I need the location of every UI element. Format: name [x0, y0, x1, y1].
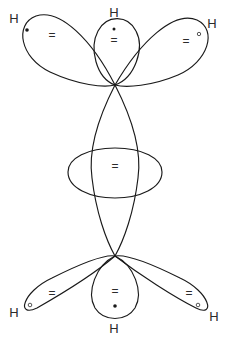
electron-pair-top-right: =	[182, 34, 189, 48]
atom-label-h-bottom-center: H	[109, 321, 118, 336]
atom-label-h-top-right: H	[207, 16, 216, 31]
electron-pair-center: =	[111, 159, 118, 173]
electron-dot-top-right	[197, 32, 200, 35]
top-right-ch-lobe	[115, 18, 208, 86]
electron-dot-bottom-left	[28, 303, 32, 307]
bottom-left-ch-lobe	[25, 256, 115, 310]
atom-label-h-bottom-left: H	[9, 305, 18, 320]
electron-dot-top-left	[25, 28, 29, 32]
electron-dot-bottom-center	[113, 304, 117, 308]
atom-label-h-bottom-right: H	[209, 309, 218, 324]
electron-dot-top-center	[113, 28, 116, 31]
electron-pair-bottom-right: =	[185, 286, 192, 300]
electron-pair-bottom-center: =	[111, 284, 118, 298]
central-cc-lobe-right	[115, 85, 139, 256]
electron-dot-bottom-right	[196, 303, 200, 307]
bottom-right-ch-lobe	[115, 256, 208, 310]
diagram-canvas: = = = = = = = H H H H H H	[0, 0, 229, 340]
ethane-orbital-diagram: = = = = = = = H H H H H H	[0, 0, 229, 340]
electron-pair-bottom-left: =	[48, 286, 55, 300]
top-center-ch-lobe	[94, 19, 139, 85]
electron-pair-top-center: =	[110, 33, 117, 47]
atom-label-h-top-center: H	[109, 5, 118, 20]
atom-label-h-top-left: H	[9, 11, 18, 26]
electron-pair-top-left: =	[48, 28, 55, 42]
